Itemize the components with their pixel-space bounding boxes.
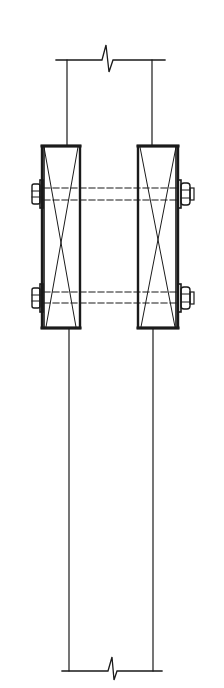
bottom-break-line [62,657,162,680]
lower-bolt [44,292,178,303]
upper-bolt [44,188,178,200]
left-spacer-block [42,146,80,328]
right-upper-nut-icon [178,180,194,208]
right-lower-nut-icon [178,284,194,312]
top-break-line [56,45,165,72]
right-spacer-block [138,146,178,328]
drawing-canvas [0,0,224,688]
